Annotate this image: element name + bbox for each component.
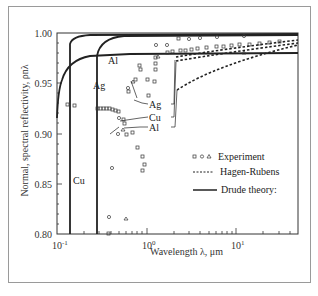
drude-ag bbox=[97, 35, 298, 234]
curve-annotations: Al Ag Cu Ag Cu Al bbox=[73, 55, 161, 186]
experiment-markers bbox=[66, 34, 281, 235]
legend-drude: Drude theory: bbox=[221, 184, 277, 195]
drude-curves bbox=[57, 34, 298, 234]
leader-lines bbox=[110, 60, 177, 134]
svg-text:1.00: 1.00 bbox=[35, 28, 53, 39]
hr-al bbox=[177, 45, 298, 90]
annotation-ag-drude: Ag bbox=[93, 80, 105, 91]
annotation-al-drude: Al bbox=[108, 55, 118, 66]
svg-text:0.80: 0.80 bbox=[35, 229, 53, 240]
hr-ag bbox=[176, 40, 298, 57]
annotation-al-hr: Al bbox=[149, 122, 159, 133]
annotation-ag-hr: Ag bbox=[149, 99, 161, 110]
legend: Experiment Hagen-Rubens Drude theory: bbox=[193, 151, 280, 195]
y-axis-label: Normal, spectral reflectivity, ρnλ bbox=[19, 51, 30, 211]
svg-text:0.85: 0.85 bbox=[35, 179, 53, 190]
svg-text:10-1: 10-1 bbox=[52, 239, 68, 251]
svg-text:101: 101 bbox=[231, 239, 245, 251]
svg-text:0.90: 0.90 bbox=[35, 129, 53, 140]
drude-cu bbox=[70, 34, 298, 234]
annotation-cu-drude: Cu bbox=[73, 175, 85, 186]
hr-cu bbox=[176, 43, 298, 61]
legend-experiment: Experiment bbox=[218, 151, 265, 162]
y-ticks bbox=[57, 43, 62, 224]
hagen-rubens-curves bbox=[176, 40, 298, 90]
y-tick-labels: 1.000.950.900.850.80 bbox=[35, 28, 53, 240]
x-axis-label: Wavelength λ, μm bbox=[150, 246, 223, 257]
plot-area bbox=[57, 33, 298, 234]
svg-text:0.95: 0.95 bbox=[35, 78, 53, 89]
legend-hagen-rubens: Hagen-Rubens bbox=[220, 166, 280, 177]
x-ticks bbox=[84, 228, 290, 234]
